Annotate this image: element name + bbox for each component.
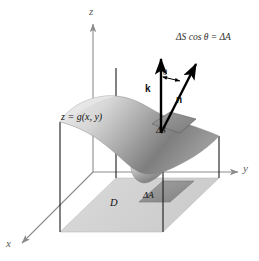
equation-label: ΔS cos θ = ΔA	[176, 33, 231, 43]
region-label: D	[110, 198, 118, 209]
surface-graph	[60, 96, 219, 183]
surface-element-label: ΔS	[156, 126, 166, 135]
figure-container: z y x ΔS cos θ = ΔA z = g(x, y) k n θ ΔS…	[0, 0, 259, 261]
angle-theta-label: θ	[163, 69, 167, 77]
vector-k-label: k	[145, 84, 151, 94]
surface-equation-label: z = g(x, y)	[61, 112, 102, 122]
area-element-label: ΔA	[143, 191, 154, 200]
base-plane-region-D	[60, 178, 219, 232]
angle-theta-indicator	[163, 77, 180, 81]
axis-label-x: x	[6, 238, 11, 249]
axis-label-y: y	[243, 163, 248, 174]
axis-x	[22, 172, 93, 243]
axis-label-z: z	[89, 6, 93, 17]
vector-n-label: n	[176, 95, 182, 105]
